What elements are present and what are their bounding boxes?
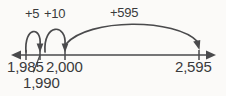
jump-arc-plus-5 [26, 32, 44, 53]
jump-label-plus-5: +5 [25, 7, 39, 20]
tick-label-2595: 2,595 [175, 59, 212, 74]
jump-label-plus-595: +595 [110, 6, 138, 19]
jump-label-plus-10: +10 [44, 7, 65, 20]
jump-arrowhead-3 [193, 40, 200, 50]
jump-arrowhead-1 [37, 44, 44, 53]
number-line-figure: +5 +10 +595 1,985 2,000 1,990 2,595 [0, 0, 226, 96]
jump-arc-path-3 [66, 24, 198, 44]
tick-label-1990: 1,990 [23, 75, 60, 90]
tick-label-1985: 1,985 [7, 59, 44, 74]
jump-arrowhead-2 [62, 44, 69, 53]
jump-arc-path-2 [45, 29, 65, 52]
tick-label-2000: 2,000 [46, 59, 83, 74]
jump-arc-plus-595 [66, 24, 200, 50]
jump-arc-plus-10 [45, 29, 69, 52]
jump-arc-path-1 [26, 32, 40, 52]
